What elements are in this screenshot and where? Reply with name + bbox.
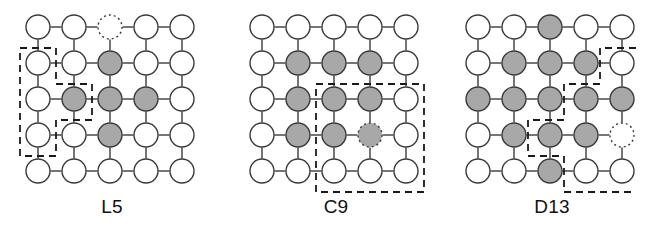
node-empty — [170, 51, 194, 75]
node-ghost-occupied — [358, 123, 382, 147]
node-empty — [26, 87, 50, 111]
node-empty — [26, 123, 50, 147]
node-empty — [394, 87, 418, 111]
node-empty — [358, 159, 382, 183]
node-empty — [250, 159, 274, 183]
node-empty — [466, 159, 490, 183]
node-empty — [170, 87, 194, 111]
node-occupied — [322, 87, 346, 111]
node-empty — [170, 159, 194, 183]
node-empty — [62, 123, 86, 147]
node-occupied — [286, 51, 310, 75]
node-empty — [502, 15, 526, 39]
node-empty — [322, 15, 346, 39]
node-empty — [62, 15, 86, 39]
lattice-svg-c9 — [224, 0, 448, 200]
node-ghost-empty — [98, 15, 122, 39]
node-empty — [466, 15, 490, 39]
node-empty — [610, 15, 634, 39]
node-occupied — [538, 51, 562, 75]
node-empty — [394, 51, 418, 75]
node-empty — [134, 51, 158, 75]
node-empty — [502, 159, 526, 183]
node-empty — [26, 15, 50, 39]
lattice-svg-d13 — [440, 0, 664, 200]
node-occupied — [502, 87, 526, 111]
node-occupied — [574, 123, 598, 147]
node-empty — [574, 15, 598, 39]
node-empty — [286, 15, 310, 39]
node-empty — [322, 159, 346, 183]
node-empty — [394, 15, 418, 39]
node-empty — [574, 159, 598, 183]
node-ghost-empty — [610, 123, 634, 147]
node-empty — [26, 51, 50, 75]
node-occupied — [98, 51, 122, 75]
node-occupied — [358, 87, 382, 111]
node-occupied — [502, 123, 526, 147]
lattice-figure: L5 C9 D13 — [0, 0, 664, 232]
node-occupied — [574, 87, 598, 111]
node-occupied — [62, 87, 86, 111]
node-empty — [466, 51, 490, 75]
node-empty — [250, 87, 274, 111]
node-occupied — [610, 87, 634, 111]
node-empty — [26, 159, 50, 183]
node-empty — [134, 159, 158, 183]
node-empty — [62, 51, 86, 75]
node-empty — [250, 15, 274, 39]
node-occupied — [538, 87, 562, 111]
node-occupied — [134, 87, 158, 111]
node-occupied — [466, 87, 490, 111]
node-occupied — [502, 51, 526, 75]
node-empty — [62, 159, 86, 183]
node-occupied — [98, 123, 122, 147]
node-empty — [394, 159, 418, 183]
node-empty — [134, 123, 158, 147]
panel-c9: C9 — [224, 0, 448, 232]
node-empty — [286, 159, 310, 183]
node-empty — [610, 51, 634, 75]
panel-label-l5: L5 — [0, 196, 224, 218]
lattice-svg-l5 — [0, 0, 224, 200]
node-occupied — [322, 123, 346, 147]
node-occupied — [358, 51, 382, 75]
panel-l5: L5 — [0, 0, 224, 232]
node-empty — [610, 159, 634, 183]
node-empty — [98, 159, 122, 183]
node-occupied — [538, 159, 562, 183]
panel-label-c9: C9 — [224, 196, 448, 218]
node-occupied — [322, 51, 346, 75]
node-occupied — [286, 123, 310, 147]
node-occupied — [574, 51, 598, 75]
node-empty — [358, 15, 382, 39]
node-empty — [250, 123, 274, 147]
node-occupied — [98, 87, 122, 111]
node-empty — [466, 123, 490, 147]
panel-label-d13: D13 — [440, 196, 664, 218]
node-empty — [170, 15, 194, 39]
node-occupied — [538, 123, 562, 147]
node-empty — [170, 123, 194, 147]
panel-d13: D13 — [440, 0, 664, 232]
node-occupied — [286, 87, 310, 111]
node-empty — [134, 15, 158, 39]
node-occupied — [538, 15, 562, 39]
node-empty — [394, 123, 418, 147]
node-empty — [250, 51, 274, 75]
